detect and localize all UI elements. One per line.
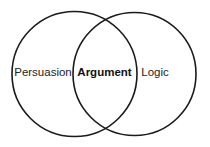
right-set-label: Logic [141,66,169,78]
venn-diagram: Persuasion Argument Logic [0,0,210,147]
left-set-label: Persuasion [14,66,72,78]
intersection-label: Argument [77,66,131,78]
